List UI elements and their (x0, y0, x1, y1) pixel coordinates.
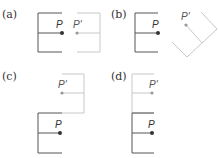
point-p-prime-label: P' (149, 79, 159, 90)
point-p-label: P (55, 119, 62, 130)
point-p-prime-label: P' (58, 79, 68, 90)
panel-label-b: (b) (111, 8, 127, 21)
panel-label-c: (c) (2, 70, 17, 83)
point-p-prime-label: P' (181, 11, 191, 22)
point-p-label: P (56, 19, 63, 30)
panel-a: (a) P P' (2, 8, 100, 52)
panel-label-d: (d) (111, 70, 127, 83)
panel-b: (b) P P' (111, 8, 217, 57)
panel-c: (c) P' P (2, 70, 84, 153)
point-p-prime (184, 23, 187, 26)
point-p (58, 131, 62, 135)
point-p (150, 131, 154, 135)
point-p-prime (60, 91, 63, 94)
image-midline-rotated (186, 25, 202, 43)
transformation-diagram: (a) P P' (b) P P' (c) P' P (d) (0, 0, 218, 158)
point-p-label: P (152, 19, 159, 30)
panel-d: (d) P' P (111, 70, 159, 153)
point-p-label: P (148, 119, 155, 130)
point-p-prime-label: P' (73, 19, 83, 30)
point-p-prime (75, 31, 78, 34)
point-p (156, 31, 160, 35)
point-p-prime (150, 91, 153, 94)
panel-label-a: (a) (2, 8, 17, 21)
point-p (60, 31, 64, 35)
